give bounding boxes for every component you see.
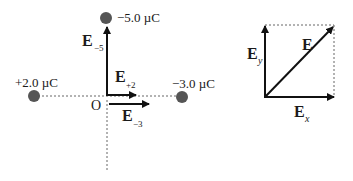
left-panel: −5.0 µC +2.0 µC −3.0 µC O E −5 E +2 E −3 bbox=[15, 10, 215, 172]
label-e-minus3-sub: −3 bbox=[133, 119, 143, 129]
charge-left-label: +2.0 µC bbox=[15, 75, 58, 90]
origin-label: O bbox=[91, 98, 101, 113]
charge-top-label: −5.0 µC bbox=[117, 10, 160, 25]
label-e-y: E bbox=[247, 45, 258, 62]
electric-field-diagram: −5.0 µC +2.0 µC −3.0 µC O E −5 E +2 E −3… bbox=[0, 0, 353, 181]
charge-top bbox=[100, 12, 112, 24]
label-e-x-sub: x bbox=[304, 113, 310, 124]
label-e-minus5-sub: −5 bbox=[94, 43, 104, 53]
charge-right-label: −3.0 µC bbox=[172, 76, 215, 91]
vector-e-resultant bbox=[265, 27, 333, 97]
label-e-minus5: E bbox=[82, 32, 93, 49]
label-e-minus3: E bbox=[122, 107, 133, 124]
label-e-x: E bbox=[294, 103, 305, 120]
charge-left bbox=[28, 90, 40, 102]
right-panel: E E y E x bbox=[247, 25, 334, 124]
label-e-y-sub: y bbox=[257, 55, 263, 66]
label-e-plus2-sub: +2 bbox=[126, 80, 136, 90]
label-e: E bbox=[302, 36, 313, 53]
label-e-plus2: E bbox=[115, 68, 126, 85]
charge-right bbox=[176, 91, 188, 103]
